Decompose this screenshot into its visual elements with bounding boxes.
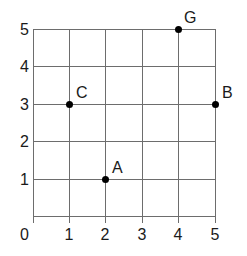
coordinate-grid-figure: 5 4 3 2 1 0 1 2 3 4 5 G C B A xyxy=(0,0,247,256)
data-point-label-A: A xyxy=(112,160,123,176)
y-axis-tick-5: 5 xyxy=(9,22,29,38)
y-axis-tick-0: 0 xyxy=(9,227,29,243)
gridline-vertical-0 xyxy=(33,29,34,223)
gridline-vertical-2 xyxy=(105,29,106,223)
data-point-label-C: C xyxy=(76,85,88,101)
data-point-A[interactable] xyxy=(102,176,109,183)
gridline-horizontal-5 xyxy=(33,29,216,30)
x-axis-tick-2: 2 xyxy=(95,227,115,243)
y-axis-tick-4: 4 xyxy=(9,59,29,75)
gridline-horizontal-3 xyxy=(33,104,216,105)
y-axis-tick-2: 2 xyxy=(9,134,29,150)
y-axis-tick-3: 3 xyxy=(9,97,29,113)
x-axis-tick-4: 4 xyxy=(168,227,188,243)
gridline-vertical-1 xyxy=(69,29,70,223)
x-axis-tick-3: 3 xyxy=(132,227,152,243)
y-axis-tick-1: 1 xyxy=(9,172,29,188)
data-point-B[interactable] xyxy=(212,101,219,108)
x-axis-tick-5: 5 xyxy=(205,227,225,243)
gridline-horizontal-0 xyxy=(33,216,216,217)
data-point-G[interactable] xyxy=(175,26,182,33)
gridline-horizontal-1 xyxy=(33,179,216,180)
gridline-vertical-5 xyxy=(215,29,216,223)
gridline-vertical-3 xyxy=(142,29,143,223)
gridline-horizontal-2 xyxy=(33,141,216,142)
x-axis-tick-1: 1 xyxy=(59,227,79,243)
gridline-horizontal-4 xyxy=(33,66,216,67)
data-point-C[interactable] xyxy=(66,101,73,108)
data-point-label-G: G xyxy=(184,10,196,26)
gridline-vertical-4 xyxy=(178,29,179,223)
data-point-label-B: B xyxy=(222,85,233,101)
